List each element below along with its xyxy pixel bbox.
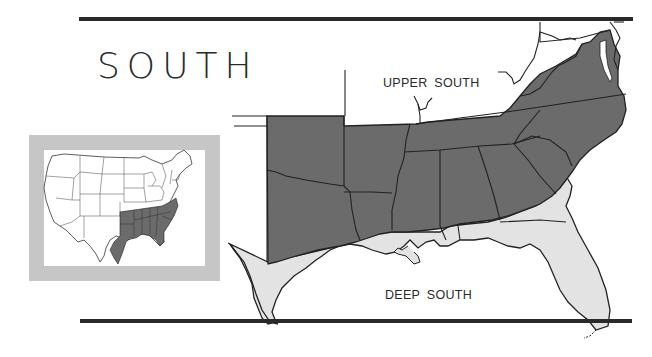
deep-south-label: DEEP SOUTH bbox=[385, 288, 472, 302]
south-regional-map bbox=[0, 0, 652, 357]
mississippi-delta bbox=[394, 246, 420, 264]
upper-south-label: UPPER SOUTH bbox=[383, 76, 480, 90]
bottom-rule bbox=[80, 319, 632, 323]
